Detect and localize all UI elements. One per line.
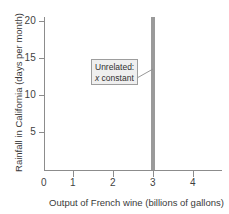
y-tick-10	[39, 95, 45, 96]
annotation-leader-line	[137, 62, 155, 80]
data-bar-x3	[151, 17, 155, 170]
y-axis-title: Rainfall in California (days per month)	[13, 13, 24, 173]
x-ticklabel-1: 1	[63, 178, 83, 188]
x-ticklabel-3: 3	[143, 178, 163, 188]
annotation-callout: Unrelated: x constant	[91, 59, 138, 85]
x-axis-line	[44, 170, 222, 171]
y-tick-20	[39, 21, 45, 22]
annotation-line-1: Unrelated:	[95, 62, 137, 73]
x-ticklabel-2: 2	[103, 178, 123, 188]
x-ticklabel-4: 4	[183, 178, 203, 188]
annotation-line-2: x constant	[95, 73, 137, 84]
x-ticklabel-0: 0	[34, 178, 54, 188]
chart-figure: 20 15 10 5 0 1 2 3 4 Unrelated: x consta…	[0, 0, 229, 214]
annotation-variable-rest: constant	[99, 73, 134, 83]
y-tick-5	[39, 132, 45, 133]
x-axis-title: Output of French wine (billions of gallo…	[44, 197, 229, 208]
y-axis-line	[44, 17, 45, 171]
y-tick-15	[39, 58, 45, 59]
